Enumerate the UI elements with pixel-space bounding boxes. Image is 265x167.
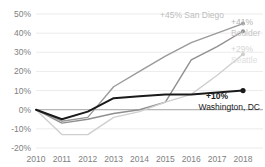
y-axis-tick-labels: 50%40%30%20%10%0%-10%-20% <box>11 9 31 153</box>
annotation-washington-city: Washington, DC <box>198 102 260 112</box>
x-axis-tick-label: 2010 <box>27 154 46 164</box>
annotation-washington-pct: +10% <box>206 91 228 101</box>
series-lines <box>36 24 243 135</box>
x-axis-tick-label: 2016 <box>182 154 201 164</box>
x-axis-tick-label: 2015 <box>156 154 175 164</box>
gridlines <box>36 14 263 148</box>
annotation-boulder-city: Boulder <box>231 28 260 38</box>
annotation-boulder: +41% Boulder <box>231 17 260 38</box>
y-axis-tick-label: 20% <box>14 66 31 76</box>
series-end-marker-washington-dc <box>240 88 245 93</box>
x-axis-tick-label: 2014 <box>130 154 149 164</box>
annotation-boulder-pct: +41% <box>231 17 253 27</box>
annotation-seattle-pct: +29% <box>231 44 253 54</box>
x-axis-tick-label: 2017 <box>208 154 227 164</box>
y-axis-tick-label: 40% <box>14 28 31 38</box>
x-axis-tick-label: 2013 <box>104 154 123 164</box>
annotation-seattle: +29% Seattle <box>231 44 258 65</box>
line-chart: 50%40%30%20%10%0%-10%-20% 20102011201220… <box>0 0 265 167</box>
x-axis-tick-label: 2011 <box>53 154 72 164</box>
chart-canvas: 50%40%30%20%10%0%-10%-20% 20102011201220… <box>0 0 265 167</box>
y-axis-tick-label: -10% <box>11 124 31 134</box>
x-axis-tick-labels: 201020112012201320142015201620172018 <box>27 154 253 164</box>
x-axis-tick-label: 2012 <box>78 154 97 164</box>
annotation-washington: +10% Washington, DC <box>198 91 260 112</box>
y-axis-tick-label: 30% <box>14 47 31 57</box>
x-axis-tick-label: 2018 <box>234 154 253 164</box>
y-axis-tick-label: 50% <box>14 9 31 19</box>
annotation-san-diego-text: +45% San Diego <box>160 10 224 20</box>
annotation-san-diego: +45% San Diego <box>160 10 224 20</box>
y-axis-tick-label: 10% <box>14 86 31 96</box>
y-axis-tick-label: -20% <box>11 143 31 153</box>
annotation-seattle-city: Seattle <box>231 55 258 65</box>
y-axis-tick-label: 0% <box>19 105 32 115</box>
